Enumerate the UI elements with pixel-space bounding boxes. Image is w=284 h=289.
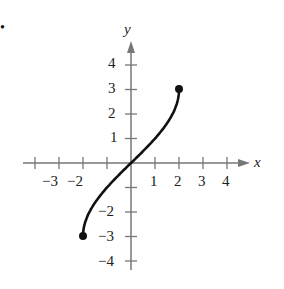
- y-tick-label: 3: [108, 81, 116, 96]
- function-graph: [0, 0, 284, 289]
- x-tick-label: −2: [67, 174, 83, 189]
- y-tick-label: 1: [110, 130, 118, 145]
- y-tick-label: −2: [98, 204, 114, 219]
- x-tick-label: −3: [42, 174, 58, 189]
- x-axis-label: x: [254, 155, 261, 170]
- endpoint-left: [79, 232, 87, 240]
- y-axis-label: y: [124, 22, 131, 37]
- x-tick-label: 2: [174, 174, 182, 189]
- x-tick-label: 3: [198, 174, 206, 189]
- y-tick-label: 2: [108, 106, 116, 121]
- x-tick-label: 4: [222, 174, 230, 189]
- y-axis-arrow-icon: [127, 41, 135, 53]
- x-tick-label: 1: [150, 174, 158, 189]
- y-tick-label: −4: [98, 254, 114, 269]
- y-tick-label: 4: [108, 56, 116, 71]
- y-tick-label: −3: [98, 229, 114, 244]
- x-axis-arrow-icon: [238, 159, 250, 167]
- endpoint-right: [175, 85, 183, 93]
